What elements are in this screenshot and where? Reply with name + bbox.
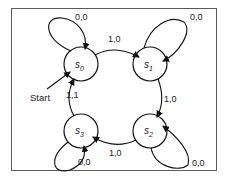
label-edge-s2-s3: 1,0 bbox=[109, 148, 122, 158]
state-s3-sub: 3 bbox=[80, 131, 84, 138]
state-s0: s0 bbox=[64, 47, 98, 81]
edge-s0-s1 bbox=[95, 50, 139, 57]
state-s2: s2 bbox=[133, 114, 167, 148]
state-s2-sub: 2 bbox=[148, 131, 153, 138]
label-loop-s2: 0,0 bbox=[192, 158, 205, 168]
state-s1: s1 bbox=[133, 47, 167, 81]
state-s1-sub: 1 bbox=[149, 65, 153, 72]
state-s3: s3 bbox=[64, 114, 98, 148]
svg-text:s0: s0 bbox=[75, 59, 84, 72]
state-diagram: s0 s1 s2 s3 0,0 1,0 0,0 1,0 0,0 1,0 0,0 … bbox=[0, 0, 226, 184]
label-edge-s1-s2: 1,0 bbox=[164, 94, 177, 104]
label-loop-s3: 0,0 bbox=[78, 157, 91, 167]
start-label: Start bbox=[30, 92, 50, 103]
loop-s0 bbox=[49, 18, 86, 51]
state-s0-sub: 0 bbox=[80, 65, 84, 72]
label-loop-s1: 0,0 bbox=[190, 12, 203, 22]
label-edge-s0-s1: 1,0 bbox=[108, 34, 121, 44]
edge-s1-s2 bbox=[157, 79, 162, 117]
label-edge-s3-s0: 1,1 bbox=[66, 90, 79, 100]
svg-text:s1: s1 bbox=[144, 59, 153, 72]
label-loop-s0: 0,0 bbox=[75, 12, 88, 22]
loop-s1 bbox=[144, 20, 187, 61]
edge-s2-s3 bbox=[93, 137, 136, 144]
start-arrow bbox=[47, 72, 70, 89]
svg-text:s3: s3 bbox=[75, 125, 84, 138]
svg-text:s2: s2 bbox=[144, 125, 153, 138]
